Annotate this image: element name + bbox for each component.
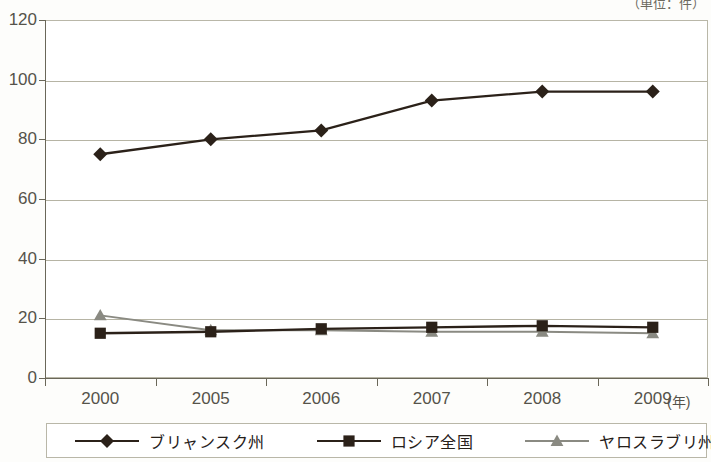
legend-item[interactable]: ブリャンスク州 [75, 424, 265, 457]
square-marker-icon [317, 433, 381, 449]
y-axis-tick-label: 20 [1, 308, 37, 328]
x-axis-tick-label: 2007 [413, 389, 451, 409]
x-axis-tick-label: 2009 [634, 389, 672, 409]
y-axis-tick [39, 20, 46, 21]
legend-label: ロシア全国 [391, 429, 474, 453]
legend-label: ブリャンスク州 [149, 429, 265, 453]
y-axis-tick-label: 100 [1, 70, 37, 90]
x-axis-tick [708, 379, 709, 386]
legend-sample [525, 433, 589, 449]
y-axis-tick-label: 80 [1, 129, 37, 149]
legend-item[interactable]: ヤロスラブリ州 [525, 424, 711, 457]
y-axis-tick [39, 259, 46, 260]
x-axis-tick [266, 379, 267, 386]
x-axis-tick [487, 379, 488, 386]
legend-item[interactable]: ロシア全国 [317, 424, 474, 457]
square-marker [343, 435, 354, 446]
gridline [46, 140, 707, 141]
x-axis-tick-label: 2006 [302, 389, 340, 409]
x-axis-tick-label: 2000 [81, 389, 119, 409]
x-axis-tick [377, 379, 378, 386]
x-axis-tick [598, 379, 599, 386]
gridline [46, 260, 707, 261]
y-axis-tick [39, 80, 46, 81]
legend-sample [75, 433, 139, 449]
unit-note: （単位：件） [627, 0, 705, 12]
diamond-marker-icon [75, 433, 139, 449]
triangle-marker-icon [525, 433, 589, 449]
x-axis-tick-label: 2008 [523, 389, 561, 409]
x-axis-unit-label: (年) [667, 391, 690, 411]
legend-label: ヤロスラブリ州 [599, 429, 711, 453]
legend-sample [317, 433, 381, 449]
y-axis-tick [39, 199, 46, 200]
y-axis-tick [39, 318, 46, 319]
x-axis-tick-label: 2005 [192, 389, 230, 409]
diamond-marker [100, 434, 114, 448]
gridline [46, 81, 707, 82]
x-axis-tick [45, 379, 46, 386]
y-axis-tick-label: 120 [1, 10, 37, 30]
plot-area [45, 20, 708, 378]
gridline [46, 319, 707, 320]
y-tick-label-group: 120100806040200 [0, 0, 37, 462]
y-axis-tick-label: 40 [1, 249, 37, 269]
y-axis-tick-label: 60 [1, 189, 37, 209]
y-axis-tick-label: 0 [1, 368, 37, 388]
triangle-marker [551, 434, 564, 445]
chart-figure: （単位：件） 120100806040200 20002005200620072… [0, 0, 711, 462]
legend: ブリャンスク州ロシア全国ヤロスラブリ州 [46, 423, 707, 458]
x-axis-tick [156, 379, 157, 386]
gridline [46, 200, 707, 201]
y-axis-tick [39, 139, 46, 140]
